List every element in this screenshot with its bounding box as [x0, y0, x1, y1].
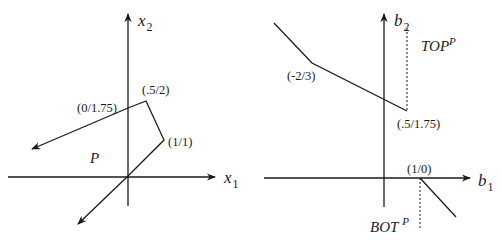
bot-p-label: BOTP: [370, 215, 409, 235]
point-label-0-1.75: (0/1.75): [77, 101, 117, 115]
x2-axis-label: x2: [137, 11, 153, 34]
diagram-canvas: x2 x1 (0/1.75) (.5/2) (1/1) P b2 b1: [0, 0, 502, 251]
right-panel: b2 b1 TOPP BOTP (-2/3) (.5/1.75) (1/0): [264, 11, 494, 235]
point-label-1-1: (1/1): [168, 135, 192, 149]
left-panel: x2 x1 (0/1.75) (.5/2) (1/1) P: [8, 11, 239, 224]
x1-axis-label: x1: [223, 168, 239, 191]
down-left-ray: [78, 177, 127, 224]
point-label-0.5-1.75: (.5/1.75): [397, 117, 440, 131]
b1-axis-label: b1: [478, 171, 494, 194]
bot-p-curve: [420, 178, 456, 217]
region-p-label: P: [89, 150, 99, 166]
point-label-1-0: (1/0): [407, 162, 431, 176]
point-label-neg2-3: (-2/3): [287, 69, 315, 83]
top-p-label: TOPP: [421, 35, 456, 54]
polyhedron-edges: [127, 101, 164, 177]
point-label-0.5-2: (.5/2): [142, 83, 169, 97]
top-p-curve: [274, 23, 407, 111]
b2-axis-label: b2: [394, 11, 410, 34]
